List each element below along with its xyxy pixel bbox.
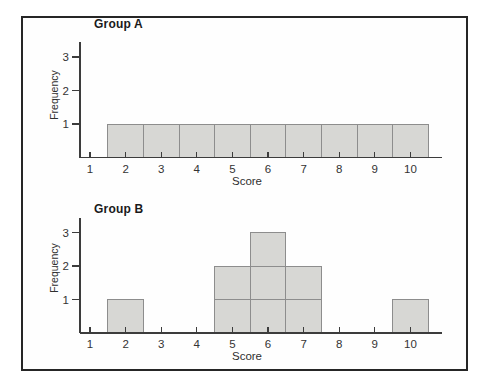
bar-unit-square — [215, 266, 251, 300]
y-tick-label: 3 — [63, 51, 69, 63]
x-tick-label: 9 — [372, 163, 378, 175]
x-tick-label: 6 — [265, 338, 271, 350]
y-tick-label: 2 — [63, 85, 69, 97]
y-tick-label: 1 — [63, 294, 69, 306]
chart-b-y-axis-label: Frequency — [47, 228, 61, 308]
y-tick-label: 3 — [63, 227, 69, 239]
x-tick-label: 9 — [372, 338, 378, 350]
x-tick-label: 10 — [404, 163, 417, 175]
chart-b-x-axis-label: Score — [212, 350, 282, 362]
histograms-figure: 1234567891012312345678910123 — [0, 0, 487, 388]
chart-b-plot: 12345678910123 — [63, 218, 442, 350]
y-tick-label: 2 — [63, 260, 69, 272]
chart-a-title: Group A — [94, 17, 143, 31]
bars — [108, 233, 428, 334]
x-tick-label: 10 — [404, 338, 417, 350]
chart-b-title: Group B — [94, 202, 143, 216]
x-tick-label: 5 — [229, 163, 235, 175]
bar-unit-square — [286, 266, 322, 300]
x-tick-label: 1 — [87, 338, 93, 350]
x-tick-label: 2 — [122, 338, 128, 350]
x-tick-label: 4 — [194, 338, 201, 350]
chart-a-y-axis-label: Frequency — [47, 55, 61, 135]
x-tick-label: 6 — [265, 163, 271, 175]
x-tick-label: 8 — [336, 338, 342, 350]
x-tick-label: 2 — [122, 163, 128, 175]
x-tick-label: 8 — [336, 163, 342, 175]
x-tick-label: 3 — [158, 338, 164, 350]
x-tick-label: 7 — [300, 163, 306, 175]
x-tick-label: 4 — [194, 163, 201, 175]
chart-a-x-axis-label: Score — [212, 175, 282, 187]
chart-a-plot: 12345678910123 — [63, 42, 442, 175]
x-tick-label: 3 — [158, 163, 164, 175]
y-tick-label: 1 — [63, 118, 69, 130]
x-tick-label: 7 — [300, 338, 306, 350]
bar-unit-square — [250, 233, 286, 267]
x-tick-label: 1 — [87, 163, 93, 175]
x-tick-label: 5 — [229, 338, 235, 350]
bar-unit-square — [250, 266, 286, 300]
